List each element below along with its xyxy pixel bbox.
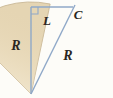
geometry-figure: R L C R xyxy=(0,0,113,98)
label-point-C: C xyxy=(74,7,83,22)
label-radius-diagonal: R xyxy=(62,48,72,63)
figure-canvas: R L C R xyxy=(0,0,113,98)
label-radius-left: R xyxy=(10,38,20,53)
label-chord-L: L xyxy=(42,13,51,28)
